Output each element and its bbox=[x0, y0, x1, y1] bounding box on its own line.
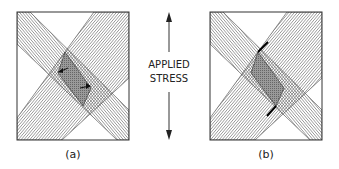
arrow-down-icon bbox=[166, 130, 172, 140]
stress-label-line2: STRESS bbox=[150, 73, 188, 84]
figure-canvas: (a) APPLIED STRESS (b) bbox=[0, 0, 339, 169]
panel-b: (b) bbox=[210, 12, 322, 161]
applied-stress-indicator: APPLIED STRESS bbox=[148, 12, 190, 140]
stress-label-line1: APPLIED bbox=[148, 59, 190, 70]
panel-a-label: (a) bbox=[65, 148, 80, 161]
arrow-up-icon bbox=[166, 12, 172, 22]
panel-a: (a) bbox=[17, 12, 129, 161]
panel-b-label: (b) bbox=[258, 148, 274, 161]
